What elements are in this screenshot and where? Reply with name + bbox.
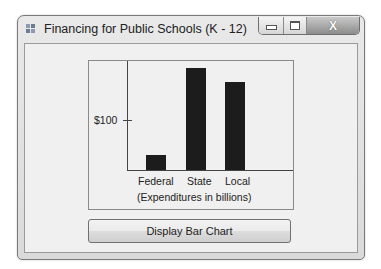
maximize-button[interactable] — [284, 17, 307, 34]
close-button[interactable]: X — [307, 17, 359, 34]
display-bar-chart-button[interactable]: Display Bar Chart — [88, 219, 291, 243]
title-bar[interactable]: Financing for Public Schools (K - 12) X — [18, 16, 364, 43]
y-tick-100 — [123, 120, 132, 121]
minimize-button[interactable] — [259, 17, 284, 34]
category-label-local: Local — [225, 175, 250, 187]
minimize-icon — [266, 25, 277, 30]
window-title: Financing for Public Schools (K - 12) — [44, 22, 247, 36]
bar-local — [225, 82, 245, 170]
bar-federal — [146, 155, 166, 170]
caption-buttons: X — [258, 17, 360, 35]
app-window: Financing for Public Schools (K - 12) X … — [17, 15, 365, 260]
x-axis — [127, 170, 293, 171]
client-area: $100 Federal State Local (Expenditures i… — [24, 43, 358, 253]
close-icon: X — [329, 19, 337, 33]
bar-chart-panel: $100 Federal State Local (Expenditures i… — [88, 60, 294, 210]
y-axis — [127, 61, 128, 170]
x-axis-caption: (Expenditures in billions) — [137, 191, 251, 203]
y-tick-label: $100 — [94, 114, 117, 126]
category-label-federal: Federal — [138, 175, 174, 187]
maximize-icon — [290, 21, 300, 30]
bar-state — [186, 68, 206, 170]
category-label-state: State — [187, 175, 212, 187]
app-icon — [26, 24, 36, 34]
